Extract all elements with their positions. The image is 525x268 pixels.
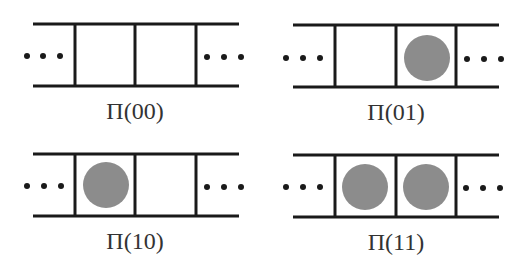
particle-icon xyxy=(403,164,449,210)
left-ellipsis-icon xyxy=(283,55,323,61)
panel-label-11: Π(11) xyxy=(368,230,424,254)
particle-icon xyxy=(342,164,388,210)
panel-label-00: Π(00) xyxy=(106,99,163,123)
particle-icon xyxy=(83,162,129,208)
panel-00 xyxy=(24,24,244,86)
panel-label-10: Π(10) xyxy=(106,229,163,253)
right-ellipsis-icon xyxy=(204,184,244,190)
panel-01 xyxy=(283,25,504,87)
panel-label-01: Π(01) xyxy=(367,100,424,124)
left-ellipsis-icon xyxy=(24,53,63,59)
left-ellipsis-icon xyxy=(283,184,323,190)
left-ellipsis-icon xyxy=(24,183,64,189)
right-ellipsis-icon xyxy=(464,56,504,62)
right-ellipsis-icon xyxy=(463,185,503,191)
particle-icon xyxy=(404,35,450,81)
diagram-canvas xyxy=(0,0,525,268)
panel-10 xyxy=(24,154,244,216)
right-ellipsis-icon xyxy=(204,54,244,60)
panel-11 xyxy=(283,155,503,217)
